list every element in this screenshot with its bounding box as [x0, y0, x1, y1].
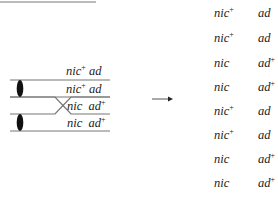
tetrad-diagram: [0, 0, 278, 200]
chromatid-label-4: nic ad+: [67, 117, 106, 130]
chromatid-label-3: nic ad+: [67, 100, 106, 113]
centromere-lower: [17, 114, 24, 131]
arrow-head-icon: [168, 97, 173, 102]
chromatid-label-1: nic+ ad: [66, 65, 101, 78]
chromatid-label-2: nic+ ad: [66, 83, 101, 96]
centromere-upper: [17, 80, 24, 97]
